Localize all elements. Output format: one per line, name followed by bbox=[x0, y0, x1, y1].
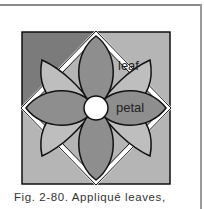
applique-flower-diagram: leaf petal bbox=[20, 30, 172, 186]
top-border-rule bbox=[0, 4, 201, 6]
petal-label: petal bbox=[116, 100, 144, 115]
leaf-label: leaf bbox=[118, 58, 139, 73]
right-border-rule bbox=[200, 4, 202, 209]
flower-center bbox=[84, 96, 108, 120]
figure-caption: Fig. 2-80. Appliqué leaves, bbox=[14, 191, 166, 203]
applique-figure: leaf petal bbox=[20, 30, 172, 186]
